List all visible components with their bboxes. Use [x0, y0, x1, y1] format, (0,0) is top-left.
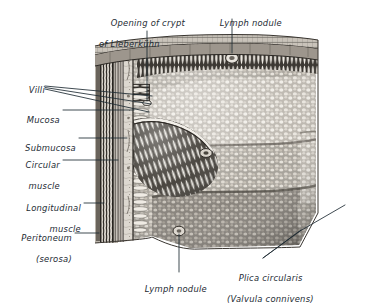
leader-villi-3: [45, 89, 149, 112]
label-line-1: Peritoneum: [21, 233, 72, 243]
label-line-1: Lymph nodule: [145, 284, 207, 294]
label-line-2: (Valvula connivens): [227, 294, 314, 305]
leader-plica-2: [263, 230, 301, 258]
label-line-1: Plica circularis: [239, 273, 303, 283]
label-line-2: muscle: [0, 181, 60, 192]
label-line-1: Lymph nodule: [220, 18, 282, 28]
label-lymph-nodule-top: Lymph nodule: [208, 7, 282, 39]
label-mucosa: Mucosa: [0, 104, 60, 136]
label-line-1: Villi: [29, 85, 45, 95]
label-line-1: Circular: [26, 160, 60, 170]
label-villi: Villi: [0, 74, 45, 106]
leader-villi-2: [45, 88, 151, 105]
leader-plica-1: [263, 205, 345, 258]
label-line-2: of Lieberkühn: [99, 39, 185, 50]
label-lymph-nodule-bottom: Lymph nodule: [133, 273, 207, 305]
label-line-2: (serosa): [0, 254, 72, 265]
label-peritoneum-serosa: Peritoneum (serosa): [0, 222, 72, 285]
label-line-1: Opening of crypt: [111, 18, 185, 28]
label-opening-of-crypt-of-lieberkuhn: Opening of crypt of Lieberkühn: [99, 7, 185, 70]
label-plica-circularis: Plica circularis (Valvula connivens): [227, 262, 314, 307]
label-line-1: Mucosa: [27, 115, 60, 125]
leader-villi-1: [45, 86, 152, 96]
label-line-1: Longitudinal: [26, 203, 81, 213]
